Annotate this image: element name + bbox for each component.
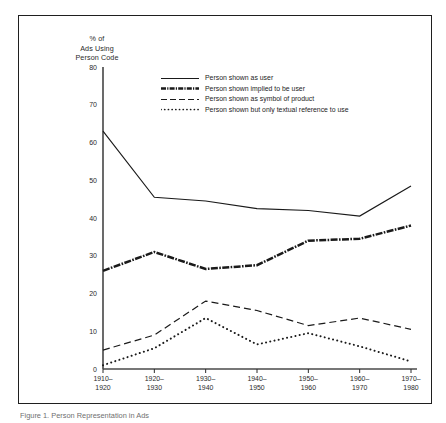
y-tick-label-50: 50: [71, 177, 97, 184]
x-tick-label-3: 1940–1950: [234, 375, 280, 392]
plot-svg: [19, 16, 433, 405]
x-tick-label-5: 1960–1970: [337, 375, 383, 392]
figure-caption: Figure 1. Person Representation in Ads: [20, 410, 320, 423]
y-tick-label-30: 30: [71, 252, 97, 259]
y-tick-label-0: 0: [71, 366, 97, 373]
series-line-1: [103, 226, 411, 271]
x-tick-label-4: 1950–1960: [285, 375, 331, 392]
chart-frame: % of Ads Using Person Code Person shown …: [18, 15, 432, 404]
x-tick-label-2: 1930–1940: [183, 375, 229, 392]
plot-area: 01020304050607080 1910–19201920–19301930…: [19, 16, 433, 405]
y-tick-label-20: 20: [71, 290, 97, 297]
x-tick-label-1: 1920–1930: [131, 375, 177, 392]
series-line-2: [103, 301, 411, 350]
y-tick-label-10: 10: [71, 328, 97, 335]
y-tick-label-40: 40: [71, 215, 97, 222]
x-tick-label-6: 1970–1980: [388, 375, 434, 392]
series-line-0: [103, 131, 411, 216]
series-group: [103, 131, 411, 365]
y-tick-label-70: 70: [71, 101, 97, 108]
figure-root: % of Ads Using Person Code Person shown …: [0, 0, 446, 423]
axis-group: [103, 67, 417, 373]
y-tick-label-80: 80: [71, 64, 97, 71]
series-line-3: [103, 318, 411, 365]
y-tick-label-60: 60: [71, 139, 97, 146]
x-tick-label-0: 1910–1920: [80, 375, 126, 392]
